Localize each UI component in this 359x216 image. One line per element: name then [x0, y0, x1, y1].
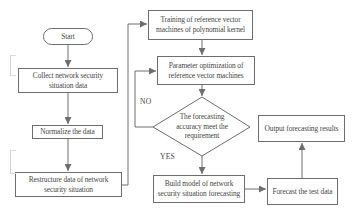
node-collect-data: Collect network security situation data	[18, 68, 118, 93]
node-training-label: Training of reference vector machines of…	[156, 15, 245, 35]
node-output-results: Output forecasting results	[258, 115, 345, 142]
node-parameter-optimization-label: Parameter optimization of reference vect…	[168, 61, 243, 81]
node-training: Training of reference vector machines of…	[148, 10, 253, 40]
flowchart-figure: Start Collect network security situation…	[0, 0, 359, 216]
edge-label-no: NO	[140, 97, 151, 106]
node-forecast-test-data: Forecast the test data	[267, 178, 338, 205]
node-start-label: Start	[61, 32, 74, 42]
node-normalize-data-label: Normalize the data	[40, 127, 94, 137]
scan-artifact-bracket	[10, 150, 16, 174]
node-start: Start	[43, 28, 93, 45]
node-collect-data-label: Collect network security situation data	[33, 71, 103, 91]
scan-artifact-bracket	[10, 55, 16, 76]
edge-label-yes: YES	[160, 152, 175, 161]
node-forecast-test-data-label: Forecast the test data	[273, 187, 333, 197]
node-build-model: Build model of network security situatio…	[153, 175, 245, 203]
node-restructure-data-label: Restructure data of network security sit…	[29, 175, 109, 195]
node-decision-label: The forecasting accuracy meet the requir…	[176, 112, 228, 142]
node-decision: The forecasting accuracy meet the requir…	[160, 100, 244, 153]
node-build-model-label: Build model of network security situatio…	[158, 179, 240, 199]
node-restructure-data: Restructure data of network security sit…	[15, 172, 122, 197]
node-parameter-optimization: Parameter optimization of reference vect…	[157, 56, 255, 85]
node-output-results-label: Output forecasting results	[265, 124, 339, 134]
node-normalize-data: Normalize the data	[32, 125, 103, 139]
